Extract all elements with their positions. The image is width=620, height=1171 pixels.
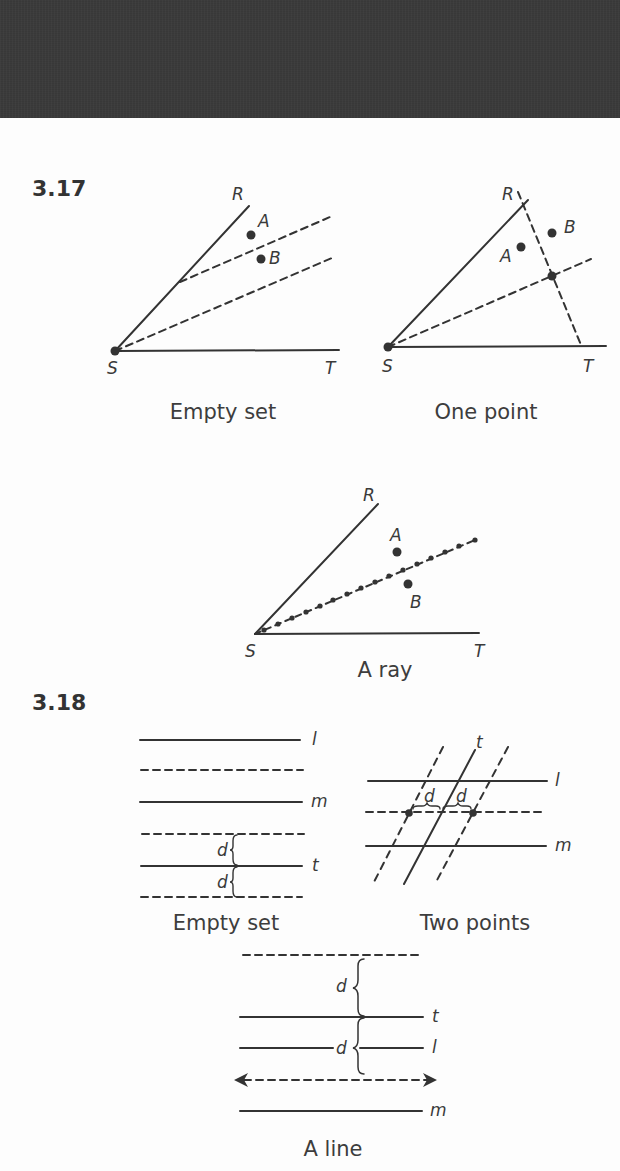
caption-empty-set-3-17: Empty set <box>170 400 277 424</box>
label-S: S <box>382 356 393 376</box>
dashed-line-1 <box>180 217 330 282</box>
point-B <box>548 229 557 238</box>
intersection-point <box>548 272 557 281</box>
brace-lower <box>230 867 237 897</box>
label-m: m <box>311 791 328 811</box>
point-A <box>393 548 402 557</box>
caption-one-point: One point <box>435 400 538 424</box>
label-T: T <box>474 641 486 661</box>
ray-ST <box>115 350 339 351</box>
caption-empty-set-3-18: Empty set <box>173 911 280 935</box>
label-T: T <box>325 358 337 378</box>
label-t: t <box>312 855 320 875</box>
label-d-lower: d <box>217 872 228 892</box>
point-S <box>111 347 120 356</box>
figure-3-18-two-points <box>366 747 547 884</box>
label-d-left: d <box>424 786 435 806</box>
label-R: R <box>502 184 514 204</box>
dashed-segment-RT <box>518 192 581 345</box>
label-m: m <box>430 1100 447 1120</box>
ray-ST <box>388 346 606 347</box>
brace-upper <box>230 835 237 865</box>
label-A: A <box>257 211 270 231</box>
caption-a-line: A line <box>304 1137 363 1161</box>
brace-upper <box>353 959 364 1016</box>
label-l: l <box>555 770 560 790</box>
geometry-figures: R A B S T R A B S T R A B S T l m t d d … <box>0 0 620 1171</box>
label-t: t <box>476 732 484 752</box>
figure-3-17-one-point <box>384 192 607 352</box>
label-t: t <box>432 1006 440 1026</box>
label-l: l <box>312 729 317 749</box>
point-B <box>404 580 413 589</box>
ray-SR <box>115 206 249 351</box>
point-A <box>247 231 256 240</box>
point-A <box>517 243 526 252</box>
label-A: A <box>499 246 512 266</box>
label-S: S <box>107 358 118 378</box>
label-l: l <box>432 1037 437 1057</box>
line-t <box>404 750 475 884</box>
dashed-bisector <box>115 258 332 351</box>
caption-a-ray: A ray <box>358 658 413 682</box>
label-d-lower: d <box>336 1038 347 1058</box>
caption-two-points: Two points <box>420 911 531 935</box>
point-S <box>384 343 393 352</box>
label-m: m <box>555 835 572 855</box>
label-d-upper: d <box>217 840 228 860</box>
figure-3-17-a-ray <box>255 504 479 634</box>
ray-SR <box>388 200 528 347</box>
point-B <box>257 255 266 264</box>
label-B: B <box>564 217 576 237</box>
label-B: B <box>410 592 422 612</box>
brace-lower <box>353 1018 364 1074</box>
dashed-bisector <box>388 259 591 347</box>
label-A: A <box>389 525 402 545</box>
label-S: S <box>245 641 256 661</box>
intersection-point-left <box>405 809 413 817</box>
ray-ST <box>255 633 479 634</box>
label-d-right: d <box>456 786 467 806</box>
label-T: T <box>583 356 595 376</box>
label-B: B <box>269 248 281 268</box>
label-d-upper: d <box>336 976 347 996</box>
ray-SR <box>255 504 378 634</box>
label-R: R <box>363 485 375 505</box>
dotted-bisector-ray <box>255 540 475 634</box>
label-R: R <box>232 184 244 204</box>
figure-3-17-empty-set <box>111 206 340 356</box>
intersection-point-right <box>469 809 477 817</box>
